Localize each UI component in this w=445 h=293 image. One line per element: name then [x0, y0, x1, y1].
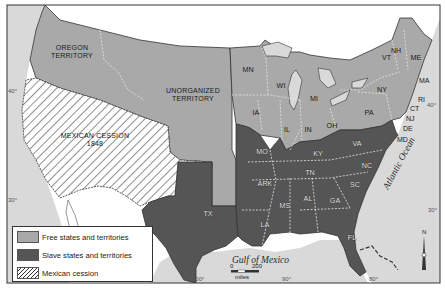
state-label-me: ME	[411, 53, 422, 62]
lon-100: 100°	[192, 276, 205, 282]
mexican-cession-label-2: 1848	[87, 140, 103, 147]
lat-40-left: 40°	[8, 88, 18, 94]
state-label-mn: MN	[242, 65, 253, 74]
state-label-pa: PA	[364, 108, 373, 117]
legend-swatch-slave	[17, 249, 39, 261]
state-label-ma: MA	[419, 77, 430, 84]
unorganized-label-1: UNORGANIZED	[166, 87, 220, 94]
legend-label-cession: Mexican cession	[42, 269, 98, 278]
state-label-ga: GA	[330, 196, 341, 205]
state-label-in: IN	[304, 125, 311, 134]
mexican-cession-label-1: MEXICAN CESSION	[61, 132, 129, 139]
state-label-ny: NY	[377, 85, 387, 94]
lat-30-left: 30°	[8, 197, 18, 203]
state-label-md: MD	[397, 136, 408, 143]
legend: Free states and territories Slave states…	[12, 226, 153, 282]
state-label-de: DE	[403, 125, 413, 132]
state-label-nc: NC	[362, 161, 372, 170]
scale-unit: miles	[235, 274, 249, 280]
lon-90: 90°	[282, 276, 292, 282]
state-label-ri: RI	[418, 96, 425, 103]
lon-80: 80°	[369, 276, 379, 282]
scale-end: 200	[252, 263, 263, 269]
legend-item-slave: Slave states and territories	[17, 248, 132, 262]
state-label-oh: OH	[327, 121, 338, 130]
state-label-la: LA	[261, 220, 270, 229]
lat-30-right: 30°	[428, 207, 438, 213]
legend-item-cession: Mexican cession	[17, 266, 98, 280]
oregon-label-2: TERRITORY	[51, 52, 93, 59]
state-label-mi: MI	[310, 94, 318, 103]
state-label-tn: TN	[305, 168, 315, 177]
compass-label: N	[422, 229, 426, 235]
lat-40-right: 40°	[427, 102, 437, 108]
state-label-il: IL	[284, 125, 290, 134]
state-label-nh: NH	[391, 47, 401, 54]
state-label-vt: VT	[382, 54, 392, 61]
map-container: Gulf of Mexico Atlantic Ocean OREGON TER…	[0, 0, 445, 293]
state-label-wi: WI	[277, 81, 286, 90]
legend-swatch-free	[17, 231, 39, 243]
unorganized-label-2: TERRITORY	[172, 95, 214, 102]
oregon-label-1: OREGON	[56, 44, 88, 51]
state-label-fl: FL	[348, 233, 356, 242]
state-label-ct: CT	[410, 105, 420, 112]
legend-item-free: Free states and territories	[17, 230, 129, 244]
state-label-mo: MO	[256, 147, 268, 156]
state-label-ky: KY	[313, 149, 323, 158]
state-label-ms: MS	[280, 201, 291, 210]
legend-label-free: Free states and territories	[42, 233, 129, 242]
legend-label-slave: Slave states and territories	[42, 251, 132, 260]
state-label-va: VA	[352, 139, 361, 148]
state-label-al: AL	[304, 194, 313, 203]
legend-swatch-hatch	[17, 267, 39, 279]
state-label-ia: IA	[253, 108, 260, 117]
state-label-nj: NJ	[406, 115, 415, 122]
state-label-tx: TX	[203, 209, 212, 218]
state-label-sc: SC	[350, 180, 360, 189]
state-label-ark: ARK	[258, 179, 273, 188]
